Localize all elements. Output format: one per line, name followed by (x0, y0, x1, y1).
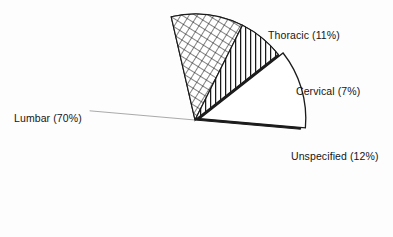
slice-label-thoracic: Thoracic (11%) (268, 30, 340, 41)
pie-chart: Thoracic (11%) Cervical (7%) Unspecified… (0, 0, 393, 237)
slice-label-cervical: Cervical (7%) (296, 86, 360, 97)
slice-label-unspecified: Unspecified (12%) (291, 151, 379, 162)
slice-label-lumbar: Lumbar (70%) (14, 113, 82, 124)
